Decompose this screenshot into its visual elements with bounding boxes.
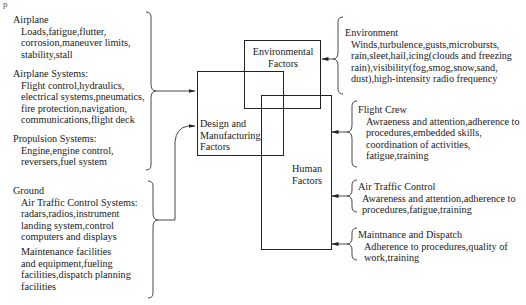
design-manufacturing-factors-label: Design and Manufacturing Factors (200, 118, 280, 153)
atc-systems-title: Air Traffic Control Systems: (21, 197, 138, 209)
airplane-systems-title: Airplane Systems: (13, 68, 145, 80)
brace-airplane-group (146, 12, 156, 170)
ground-section: Ground Air Traffic Control Systems: rada… (13, 185, 138, 292)
environment-section: Environment Winds,turbulence,gusts,micro… (345, 27, 512, 85)
brace-environment (333, 17, 343, 94)
brace-ground-group (148, 181, 158, 298)
brace-flight-crew (347, 101, 357, 167)
maintenance-dispatch-section: Maintnance and Dispatch Adherence to pro… (358, 229, 508, 264)
brace-maintenance (347, 228, 357, 260)
airplane-systems-section: Airplane Systems: Flight control,hydraul… (13, 68, 145, 126)
air-traffic-control-section: Air Traffic Control Awareness and attent… (358, 181, 516, 216)
flight-crew-section: Flight Crew Awraeness and attention,adhe… (358, 104, 520, 162)
environment-title: Environment (345, 27, 512, 39)
propulsion-systems-section: Propulsion Systems: Engine,engine contro… (13, 133, 114, 168)
airplane-title: Airplane (13, 14, 131, 26)
propulsion-systems-title: Propulsion Systems: (13, 133, 114, 145)
airplane-section: Airplane Loads,fatigue,flutter, corrosio… (13, 14, 131, 60)
air-traffic-control-title: Air Traffic Control (358, 181, 516, 193)
flight-crew-title: Flight Crew (358, 104, 520, 116)
environmental-factors-label: Environmental Factors (246, 46, 320, 69)
human-factors-label: Human Factors (285, 163, 329, 186)
ground-title: Ground (13, 185, 138, 197)
maintenance-dispatch-title: Maintnance and Dispatch (358, 229, 508, 241)
brace-atc (347, 180, 357, 212)
